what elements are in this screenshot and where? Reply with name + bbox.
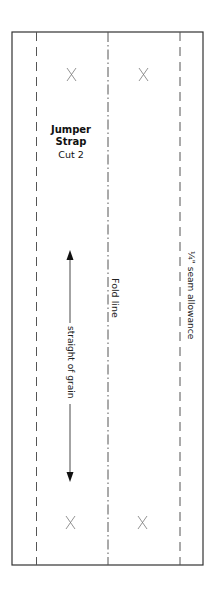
grainline-label: straight of grain: [66, 326, 76, 398]
seam-allowance-label: ¼" seam allowance: [186, 251, 196, 339]
fold-line-label: Fold line: [110, 278, 121, 318]
pattern-title: JumperStrap: [38, 124, 104, 148]
cut-count: Cut 2: [38, 149, 104, 160]
